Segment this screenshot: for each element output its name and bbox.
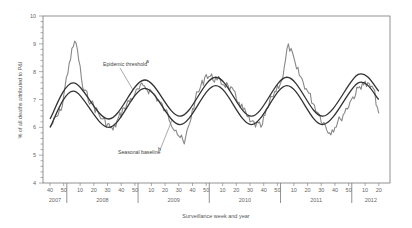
x-year-label: 2011 [310,197,322,203]
annotation-superscript: a [146,58,149,64]
x-axis: 4050102030405010203040501020304050102030… [47,183,382,203]
chart-canvas: 45678910 4050102030405010203040501020304… [0,0,412,228]
x-tick-label: 20 [233,187,239,193]
annotation-pointer [160,120,172,150]
x-tick-label: 30 [318,187,324,193]
observed-series-line [50,41,379,144]
x-tick-label: 20 [91,187,97,193]
x-year-label: 2010 [239,197,251,203]
x-tick-label: 40 [118,187,124,193]
x-tick-label: 10 [220,187,226,193]
x-tick-label: 40 [189,187,195,193]
x-tick-label: 50 [346,187,352,193]
x-tick-label: 30 [104,187,110,193]
x-tick-label: 20 [304,187,310,193]
x-tick-label: 50 [274,187,280,193]
x-tick-label: 50 [132,187,138,193]
x-tick-label: 10 [148,187,154,193]
y-tick-label: 4 [33,180,36,186]
x-tick-label: 10 [77,187,83,193]
x-tick-label: 40 [47,187,53,193]
y-tick-label: 8 [33,69,36,75]
y-tick-label: 7 [33,97,36,103]
x-year-label: 2012 [365,197,377,203]
annotation-seasonal-baseline: Seasonal baseline b [118,120,172,155]
x-tick-label: 50 [203,187,209,193]
y-tick-label: 9 [33,41,36,47]
y-tick-label: 5 [33,152,36,158]
y-axis-title: % of all deaths attributed to P&I [17,61,23,139]
x-tick-label: 30 [176,187,182,193]
x-tick-label: 20 [376,187,382,193]
x-year-label: 2007 [49,197,61,203]
x-tick-label: 10 [362,187,368,193]
y-axis: 45678910 [30,13,43,186]
x-tick-label: 40 [332,187,338,193]
y-tick-label: 10 [30,13,36,19]
x-tick-label: 20 [162,187,168,193]
seasonal-baseline-line [50,82,379,127]
x-tick-label: 50 [61,187,67,193]
annotation-pointer [120,68,133,90]
x-tick-label: 40 [261,187,267,193]
x-tick-label: 10 [291,187,297,193]
x-year-label: 2008 [96,197,108,203]
annotation-seasonal-baseline-label: Seasonal baseline [118,149,161,155]
y-tick-label: 6 [33,124,36,130]
annotation-epidemic-threshold: Epidemic threshold a [103,58,149,90]
annotation-epidemic-threshold-label: Epidemic threshold [103,61,147,67]
x-year-label: 2009 [168,197,180,203]
x-tick-label: 30 [247,187,253,193]
x-axis-title: Surveillance week and year [182,213,249,219]
plot-frame [43,16,390,183]
